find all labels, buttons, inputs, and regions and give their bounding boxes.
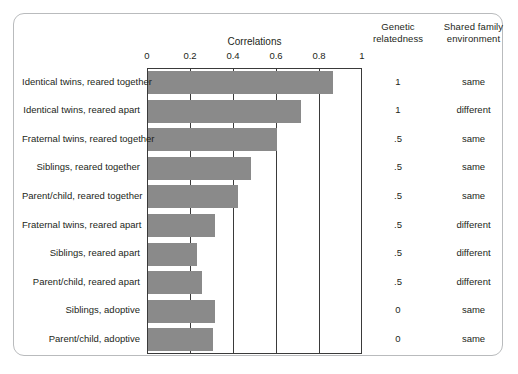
bar	[148, 214, 215, 237]
genetic-relatedness-value: .5	[364, 133, 432, 144]
category-label: Parent/child, reared apart	[22, 276, 140, 288]
genetic-relatedness-value: .5	[364, 190, 432, 201]
column-header-genetic-line1: Genetic	[364, 21, 432, 33]
bar	[148, 328, 213, 351]
x-tick-label: 1	[349, 50, 375, 61]
genetic-relatedness-value: 1	[364, 76, 432, 87]
genetic-relatedness-value: 1	[364, 104, 432, 115]
shared-family-environment-value: different	[432, 219, 515, 230]
x-tick-label: 0.8	[306, 50, 332, 61]
shared-family-environment-value: same	[432, 133, 515, 144]
x-tick-label: 0.4	[220, 50, 246, 61]
column-header-shared-line2: environment	[432, 33, 515, 45]
x-tick-label: 0.2	[177, 50, 203, 61]
gridline	[319, 69, 320, 353]
chart-title: Correlations	[147, 36, 362, 47]
category-label: Parent/child, adoptive	[22, 333, 140, 345]
bar	[148, 271, 202, 294]
shared-family-environment-value: same	[432, 76, 515, 87]
shared-family-environment-value: different	[432, 104, 515, 115]
x-tick-label: 0	[134, 50, 160, 61]
genetic-relatedness-value: 0	[364, 333, 432, 344]
genetic-relatedness-value: .5	[364, 276, 432, 287]
column-header-shared-family-environment: Shared family environment	[432, 21, 515, 44]
bar	[148, 128, 277, 151]
shared-family-environment-value: same	[432, 161, 515, 172]
column-header-genetic-relatedness: Genetic relatedness	[364, 21, 432, 44]
category-label: Fraternal twins, reared apart	[22, 219, 140, 231]
genetic-relatedness-value: .5	[364, 161, 432, 172]
category-label: Parent/child, reared together	[22, 190, 140, 202]
bar	[148, 71, 333, 94]
category-label: Fraternal twins, reared together	[22, 133, 140, 145]
category-label: Identical twins, reared apart	[22, 104, 140, 116]
category-label: Siblings, reared apart	[22, 247, 140, 259]
shared-family-environment-value: different	[432, 247, 515, 258]
shared-family-environment-value: same	[432, 333, 515, 344]
shared-family-environment-value: same	[432, 190, 515, 201]
bar	[148, 300, 215, 323]
plot-area	[147, 68, 362, 354]
genetic-relatedness-value: 0	[364, 304, 432, 315]
category-label: Siblings, reared together	[22, 161, 140, 173]
x-tick-label: 0.6	[263, 50, 289, 61]
shared-family-environment-value: different	[432, 276, 515, 287]
bar	[148, 100, 301, 123]
bar	[148, 185, 238, 208]
column-header-shared-line1: Shared family	[432, 21, 515, 33]
shared-family-environment-value: same	[432, 304, 515, 315]
genetic-relatedness-value: .5	[364, 247, 432, 258]
category-label: Siblings, adoptive	[22, 304, 140, 316]
bar	[148, 157, 251, 180]
bar	[148, 243, 197, 266]
category-label: Identical twins, reared together	[22, 76, 140, 88]
column-header-genetic-line2: relatedness	[364, 33, 432, 45]
genetic-relatedness-value: .5	[364, 219, 432, 230]
